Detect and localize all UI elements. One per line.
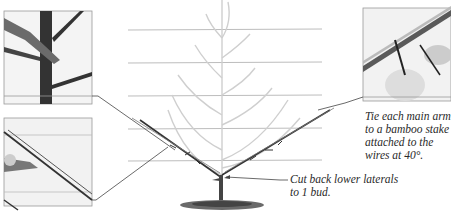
- caption-line: attached to the: [365, 136, 451, 149]
- trained-arms: [132, 108, 334, 178]
- pruning-cut-inset: [4, 11, 92, 104]
- bamboo-stake-tie-inset: [363, 6, 451, 101]
- training-wires: [128, 29, 322, 161]
- espalier-training-illustration: Tie each main arm to a bamboo stake atta…: [0, 0, 451, 213]
- future-tree-outline: [168, 0, 300, 205]
- caption-cut-laterals: Cut back lower laterals to 1 bud.: [290, 173, 451, 199]
- caption-line: to 1 bud.: [290, 186, 451, 199]
- caption-line: to a bamboo stake: [365, 123, 451, 136]
- caption-line: wires at 40°.: [365, 149, 451, 162]
- arm-on-cane-inset: [4, 118, 92, 210]
- soil-mound: [180, 200, 264, 210]
- caption-line: Tie each main arm: [365, 110, 451, 123]
- caption-line: Cut back lower laterals: [290, 173, 451, 186]
- caption-tie-arm: Tie each main arm to a bamboo stake atta…: [365, 110, 451, 162]
